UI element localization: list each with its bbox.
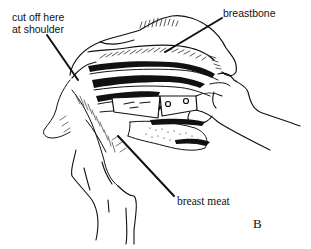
panel-letter: B — [253, 217, 262, 230]
breast-meat-region — [128, 121, 207, 150]
left-hand — [71, 150, 136, 244]
label-shoulder-line2: at shoulder — [12, 23, 64, 35]
illustration-figure: cut off here at shoulder breastbone brea… — [0, 0, 311, 249]
label-breastbone: breastbone — [223, 8, 276, 19]
right-hand — [188, 73, 300, 150]
label-breast-meat: breast meat — [177, 196, 230, 208]
label-shoulder-line1: cut off here — [12, 11, 64, 23]
knife — [112, 96, 197, 118]
label-cut-off-at-shoulder: cut off here at shoulder — [12, 11, 64, 35]
poultry-carving-drawing-icon — [0, 0, 311, 249]
